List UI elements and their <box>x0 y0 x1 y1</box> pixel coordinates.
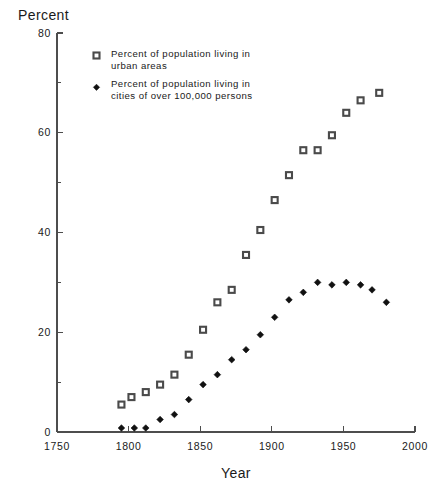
legend-entry-0: Percent of population living in urban ar… <box>94 48 251 71</box>
y-tick-label: 60 <box>38 126 51 138</box>
x-tick-label: 1750 <box>44 440 70 452</box>
legend-label-1-line2: cities of over 100,000 persons <box>111 90 253 101</box>
data-point-diamond <box>171 411 178 418</box>
data-point-diamond <box>118 425 125 432</box>
data-point-diamond <box>185 396 192 403</box>
x-tick-label: 1950 <box>331 440 357 452</box>
x-tick-label: 1850 <box>187 440 213 452</box>
data-point-diamond <box>314 279 321 286</box>
series-urban-areas <box>118 90 382 408</box>
legend-open-square-icon <box>94 53 100 59</box>
data-point-diamond <box>200 381 207 388</box>
data-point-square <box>286 172 292 178</box>
data-point-diamond <box>357 282 364 289</box>
data-point-diamond <box>243 346 250 353</box>
data-point-diamond <box>383 299 390 306</box>
data-point-square <box>376 90 382 96</box>
data-point-square <box>157 382 163 388</box>
data-point-square <box>257 227 263 233</box>
data-point-square <box>186 352 192 358</box>
data-point-square <box>171 372 177 378</box>
data-point-diamond <box>343 279 350 286</box>
y-tick-label: 0 <box>45 426 51 438</box>
x-tick-label: 2000 <box>402 440 428 452</box>
data-point-square <box>214 299 220 305</box>
legend-entry-1: Percent of population living in cities o… <box>93 78 252 101</box>
scatter-plot-svg: Percent 020406080 1750180018501900195020… <box>0 0 441 492</box>
y-axis-ticks: 020406080 <box>38 27 63 438</box>
data-point-diamond <box>329 282 336 289</box>
data-point-square <box>329 132 335 138</box>
data-point-diamond <box>257 331 264 338</box>
series-large-cities <box>118 279 390 431</box>
data-point-diamond <box>286 297 293 304</box>
data-point-diamond <box>131 425 138 432</box>
chart-container: Percent 020406080 1750180018501900195020… <box>0 0 441 492</box>
y-tick-label: 80 <box>38 27 51 39</box>
data-point-square <box>358 97 364 103</box>
data-point-square <box>315 147 321 153</box>
legend-label-1-line1: Percent of population living in <box>111 78 250 89</box>
data-point-diamond <box>300 289 307 296</box>
data-point-square <box>300 147 306 153</box>
data-point-square <box>229 287 235 293</box>
data-point-square <box>118 402 124 408</box>
data-point-diamond <box>214 371 221 378</box>
legend-filled-diamond-icon <box>93 84 99 90</box>
legend-label-0-line2: urban areas <box>111 60 167 71</box>
data-point-diamond <box>142 425 149 432</box>
data-point-square <box>343 110 349 116</box>
data-point-diamond <box>228 356 235 363</box>
data-point-square <box>272 197 278 203</box>
data-point-square <box>243 252 249 258</box>
x-tick-label: 1800 <box>116 440 142 452</box>
data-point-diamond <box>157 416 164 423</box>
legend: Percent of population living in urban ar… <box>93 48 252 101</box>
x-axis-title: Year <box>221 465 251 481</box>
data-point-square <box>143 389 149 395</box>
x-axis-ticks: 175018001850190019502000 <box>44 426 428 452</box>
data-point-diamond <box>271 314 278 321</box>
y-axis-title: Percent <box>18 7 69 23</box>
data-point-square <box>128 394 134 400</box>
data-point-square <box>200 327 206 333</box>
x-tick-label: 1900 <box>259 440 285 452</box>
y-tick-label: 40 <box>38 226 51 238</box>
y-tick-label: 20 <box>38 326 51 338</box>
data-point-diamond <box>369 287 376 294</box>
legend-label-0-line1: Percent of population living in <box>111 48 250 59</box>
